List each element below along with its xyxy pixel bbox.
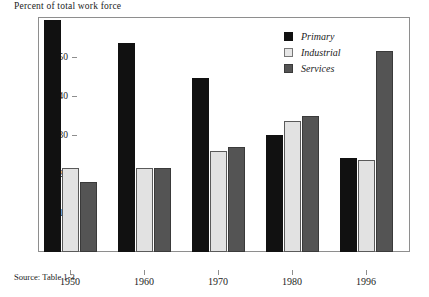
x-axis-tick xyxy=(218,270,219,275)
bar-industrial-1996 xyxy=(358,160,375,252)
bar-industrial-1970 xyxy=(210,151,227,252)
legend-label-primary: Primary xyxy=(301,31,334,42)
source-note: Source: Table 1-3. xyxy=(14,272,77,282)
x-axis-tick-label: 1960 xyxy=(134,276,154,287)
x-axis-tick xyxy=(144,270,145,275)
x-axis-tick xyxy=(366,270,367,275)
legend-swatch-primary-icon xyxy=(284,32,293,41)
legend-swatch-services-icon xyxy=(284,64,293,73)
bar-industrial-1950 xyxy=(62,168,79,252)
bar-industrial-1980 xyxy=(284,121,301,252)
legend-item-primary: Primary xyxy=(284,29,392,43)
x-axis-tick-label: 1970 xyxy=(208,276,228,287)
bar-services-1970 xyxy=(228,147,245,252)
bar-services-1960 xyxy=(154,168,171,252)
legend-item-industrial: Industrial xyxy=(284,45,392,59)
legend-item-services: Services xyxy=(284,61,392,75)
x-axis-tick-label: 1980 xyxy=(282,276,302,287)
bar-primary-1980 xyxy=(266,135,283,252)
bar-primary-1960 xyxy=(118,43,135,252)
y-axis-tick: 40 xyxy=(72,96,77,97)
bar-services-1996 xyxy=(376,51,393,252)
bar-industrial-1960 xyxy=(136,168,153,252)
y-axis-tick: 30 xyxy=(72,135,77,136)
x-axis-tick-label: 1996 xyxy=(356,276,376,287)
bar-services-1980 xyxy=(302,116,319,253)
legend-swatch-industrial-icon xyxy=(284,48,293,57)
bar-primary-1996 xyxy=(340,158,357,252)
x-axis-tick xyxy=(292,270,293,275)
chart-legend: Primary Industrial Services xyxy=(284,29,392,77)
legend-label-services: Services xyxy=(301,63,334,74)
figure: Percent of total work force 102030405019… xyxy=(0,0,429,297)
bar-primary-1970 xyxy=(192,78,209,252)
chart-title: Percent of total work force xyxy=(14,1,121,11)
bar-primary-1950 xyxy=(44,20,61,252)
y-axis-tick: 50 xyxy=(72,57,77,58)
legend-label-industrial: Industrial xyxy=(301,47,340,58)
bar-services-1950 xyxy=(80,182,97,252)
